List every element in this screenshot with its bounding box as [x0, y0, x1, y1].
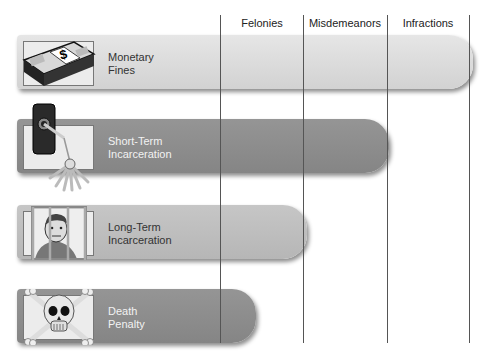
label-monetary-fines: Monetary Fines — [108, 51, 154, 77]
divider-left-felonies — [220, 15, 221, 343]
money-stack-icon: $ — [20, 38, 98, 90]
prisoner-bars-icon — [31, 205, 87, 261]
divider-felonies-misdemeanors — [303, 15, 304, 343]
jail-key-icon — [30, 102, 100, 192]
column-header-infractions: Infractions — [387, 17, 469, 29]
label-death-penalty: Death Penalty — [108, 305, 145, 331]
column-header-felonies: Felonies — [221, 17, 303, 29]
skull-crossbones-icon — [24, 289, 94, 345]
label-long-term-incarceration: Long-Term Incarceration — [108, 221, 172, 247]
label-short-term-incarceration: Short-Term Incarceration — [108, 135, 172, 161]
divider-right-infractions — [469, 15, 470, 343]
column-header-misdemeanors: Misdemeanors — [304, 17, 386, 29]
divider-misdemeanors-infractions — [387, 15, 388, 343]
